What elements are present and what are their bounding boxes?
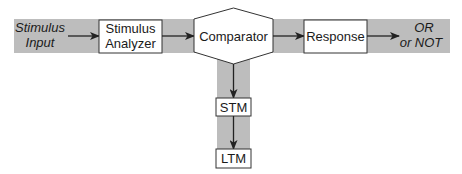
output-line1: OR bbox=[414, 20, 434, 35]
response-label: Response bbox=[306, 29, 365, 44]
stimulus-analyzer-line1: Stimulus bbox=[106, 21, 156, 36]
stimulus-analyzer-line2: Analyzer bbox=[105, 36, 156, 51]
ltm-node: LTM bbox=[216, 149, 251, 168]
stm-label: STM bbox=[220, 100, 247, 115]
flow-diagram: Stimulus Input Stimulus Analyzer Compara… bbox=[0, 0, 462, 174]
stimulus-input-line1: Stimulus bbox=[15, 20, 65, 35]
ltm-label: LTM bbox=[221, 151, 246, 166]
output-line2: or NOT bbox=[400, 35, 444, 50]
response-node: Response bbox=[304, 20, 367, 53]
stimulus-input-line2: Input bbox=[26, 35, 56, 50]
comparator-label: Comparator bbox=[199, 29, 268, 44]
comparator-node: Comparator bbox=[194, 8, 273, 64]
stimulus-analyzer-node: Stimulus Analyzer bbox=[99, 20, 162, 53]
stm-node: STM bbox=[216, 98, 251, 116]
